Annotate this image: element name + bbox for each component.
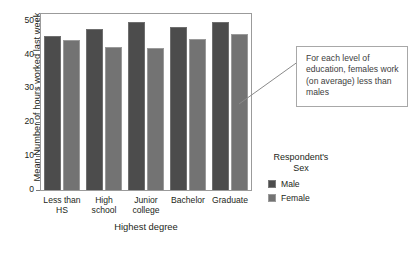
bar-male-5 [212, 22, 229, 190]
x-axis-title: Highest degree [40, 221, 252, 232]
y-tick-label: 10 [24, 150, 34, 161]
callout-annotation: For each level of education, females wor… [296, 46, 408, 107]
legend-title-line-2: Sex [258, 163, 344, 174]
bar-female-4 [189, 39, 206, 190]
y-tick-label: 0 [29, 184, 34, 195]
legend-items: MaleFemale [268, 179, 374, 203]
y-tick-mark [36, 156, 40, 157]
y-tick-mark [36, 88, 40, 89]
x-tick-label: Graduate [200, 195, 260, 205]
y-tick-label: 20 [24, 116, 34, 127]
legend-item-female[interactable]: Female [268, 193, 374, 203]
y-tick-label: 40 [24, 49, 34, 60]
bar-female-1 [63, 40, 80, 190]
bar-male-2 [86, 29, 103, 190]
legend-swatch-icon [268, 194, 276, 202]
y-tick-mark [36, 54, 40, 55]
y-tick-mark [36, 122, 40, 123]
bars-layer [41, 14, 251, 190]
y-tick-label: 50 [24, 15, 34, 26]
y-tick-mark [36, 190, 40, 191]
bar-female-5 [231, 34, 248, 190]
legend-item-label: Male [281, 179, 300, 189]
legend: Respondent's Sex MaleFemale [258, 152, 374, 207]
y-tick-mark [36, 20, 40, 21]
bar-male-3 [128, 22, 145, 190]
bar-female-3 [147, 48, 164, 190]
bar-chart-figure: Mean Number of hours worked last week 01… [0, 0, 418, 255]
bar-male-4 [170, 27, 187, 190]
callout-leader-line [238, 60, 300, 106]
legend-title-line-1: Respondent's [258, 152, 344, 163]
bar-female-2 [105, 47, 122, 191]
legend-swatch-icon [268, 180, 276, 188]
legend-item-label: Female [281, 193, 310, 203]
bar-male-1 [44, 36, 61, 190]
y-tick-label: 30 [24, 82, 34, 93]
legend-item-male[interactable]: Male [268, 179, 374, 189]
legend-title: Respondent's Sex [258, 152, 344, 174]
clipped-top-text [0, 0, 418, 2]
